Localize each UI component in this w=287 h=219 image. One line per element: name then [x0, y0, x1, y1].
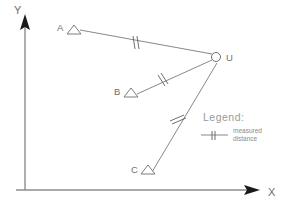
station-label-u: U — [226, 52, 233, 63]
ray-b-u — [137, 60, 212, 94]
station-label-a: A — [57, 22, 64, 33]
ray-group — [80, 30, 217, 172]
station-group — [67, 25, 221, 174]
legend-symbol-group — [201, 131, 228, 140]
station-label-c: C — [131, 164, 138, 175]
station-marker-b[interactable] — [124, 88, 138, 97]
legend-entry-line1: measured — [233, 127, 262, 134]
tick-a-u — [133, 36, 139, 49]
station-marker-c[interactable] — [141, 165, 155, 174]
x-axis-label: X — [268, 186, 276, 198]
tick-group — [133, 36, 186, 124]
legend-title: Legend: — [203, 111, 244, 123]
station-marker-a[interactable] — [67, 25, 81, 34]
legend-entry-line2: distance — [233, 135, 258, 142]
station-label-b: B — [114, 86, 120, 97]
diagram-canvas: Y X A B C U Legend: measured distance — [0, 0, 287, 219]
tick-c-u — [170, 115, 186, 124]
ray-a-u — [80, 30, 212, 54]
survey-diagram: Y X A B C U Legend: measured distance — [0, 0, 287, 219]
y-axis-label: Y — [14, 4, 22, 16]
station-marker-u[interactable] — [212, 53, 221, 62]
